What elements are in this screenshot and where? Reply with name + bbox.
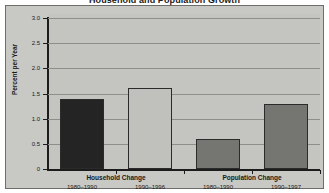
- plot-frame: Percent per Year 00.51.01.52.02.53.0 198…: [5, 5, 324, 189]
- bar: [128, 88, 172, 169]
- x-axis-period-label: 1980–1990: [48, 183, 116, 191]
- y-axis-tick-label: 0: [18, 166, 40, 172]
- bar: [264, 104, 308, 169]
- x-axis-period-label: 1990–1996: [116, 183, 184, 191]
- y-axis-tick-label: 1.5: [18, 91, 40, 97]
- x-axis-period-label: 1990–1997: [252, 183, 320, 191]
- gridline: [48, 68, 320, 69]
- y-axis-title: Percent per Year: [11, 34, 18, 106]
- gridline: [48, 94, 320, 95]
- y-axis-tick-label: 1.0: [18, 116, 40, 122]
- gridline: [48, 43, 320, 44]
- y-axis-tick-label: 0.5: [18, 141, 40, 147]
- bar: [60, 99, 104, 169]
- gridline: [48, 18, 320, 19]
- x-axis-group-label: Population Change: [184, 174, 320, 182]
- y-axis-tick-label: 2.0: [18, 65, 40, 71]
- x-axis-tick: [320, 170, 321, 174]
- bar: [196, 139, 240, 169]
- y-axis-tick: [43, 169, 48, 170]
- x-axis-period-label: 1980–1990: [184, 183, 252, 191]
- chart-figure: Household and Population Growth Percent …: [0, 0, 329, 193]
- x-axis-group-label: Household Change: [48, 174, 184, 182]
- y-axis-tick-label: 2.5: [18, 40, 40, 46]
- y-axis-tick-label: 3.0: [18, 15, 40, 21]
